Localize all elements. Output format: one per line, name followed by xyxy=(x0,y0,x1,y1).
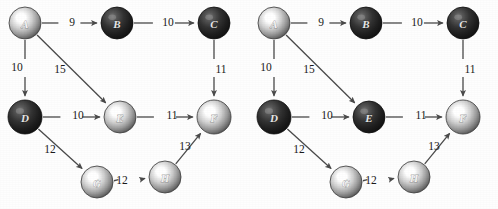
node-h[interactable]: H xyxy=(398,161,430,193)
node-e[interactable]: E xyxy=(353,101,385,133)
edge-d-e: 10 xyxy=(43,109,100,121)
node-label-a: A xyxy=(20,18,28,30)
edge-d-g: 12 xyxy=(287,129,331,168)
node-a[interactable]: A xyxy=(9,7,41,39)
node-label-f: F xyxy=(209,112,218,124)
edge-d-g: 12 xyxy=(38,129,82,168)
node-c[interactable]: C xyxy=(198,7,230,39)
edge-weight-e-f: 11 xyxy=(166,109,177,121)
edge-e-f: 11 xyxy=(386,109,442,121)
node-label-a: A xyxy=(269,18,277,30)
edge-weight-g-h: 12 xyxy=(116,174,128,186)
node-b[interactable]: B xyxy=(350,7,382,39)
edge-weight-d-g: 12 xyxy=(293,143,305,155)
node-label-b: B xyxy=(112,18,120,30)
edge-weight-g-h: 12 xyxy=(365,174,377,186)
node-c[interactable]: C xyxy=(447,7,479,39)
edge-g-h: 12 xyxy=(114,174,145,186)
edge-weight-h-f: 13 xyxy=(179,140,191,152)
edge-weight-a-b: 9 xyxy=(69,16,75,28)
node-label-e: E xyxy=(115,112,123,124)
edge-c-f: 11 xyxy=(463,40,476,96)
edge-weight-e-f: 11 xyxy=(415,109,426,121)
node-a[interactable]: A xyxy=(258,7,290,39)
node-f[interactable]: F xyxy=(446,100,480,134)
node-e[interactable]: E xyxy=(104,101,136,133)
right-graph-canvas: 9101015111011121213ABCDEFGH xyxy=(249,0,498,209)
edge-e-f: 11 xyxy=(137,109,193,121)
node-b[interactable]: B xyxy=(101,7,133,39)
edge-weight-a-e: 15 xyxy=(303,63,315,75)
left-graph-canvas: 9101015111011121213ABCDEFGH xyxy=(0,0,249,209)
edge-a-e: 15 xyxy=(286,35,355,103)
edge-weight-a-d: 10 xyxy=(11,61,23,73)
node-label-h: H xyxy=(160,172,170,184)
edge-d-e: 10 xyxy=(292,109,349,121)
edge-g-h: 12 xyxy=(363,174,394,186)
edge-c-f: 11 xyxy=(214,40,227,96)
node-d[interactable]: D xyxy=(8,100,42,134)
edge-h-f: 13 xyxy=(425,133,450,163)
edge-a-e: 15 xyxy=(37,35,106,103)
node-label-c: C xyxy=(459,18,467,30)
edge-weight-b-c: 10 xyxy=(162,16,174,28)
node-label-g: G xyxy=(93,177,101,189)
node-label-d: D xyxy=(20,112,29,124)
node-label-b: B xyxy=(361,18,369,30)
edge-weight-d-e: 10 xyxy=(321,109,333,121)
node-label-h: H xyxy=(409,172,419,184)
node-label-f: F xyxy=(458,112,467,124)
node-label-g: G xyxy=(342,177,350,189)
right-graph-panel: 9101015111011121213ABCDEFGH xyxy=(249,0,498,209)
node-label-e: E xyxy=(364,112,372,124)
edge-weight-h-f: 13 xyxy=(428,140,440,152)
node-g[interactable]: G xyxy=(330,166,362,198)
edge-weight-b-c: 10 xyxy=(411,16,423,28)
edge-h-f: 13 xyxy=(176,133,201,163)
node-label-c: C xyxy=(210,18,218,30)
edge-a-b: 9 xyxy=(291,16,346,28)
node-d[interactable]: D xyxy=(257,100,291,134)
edge-weight-d-g: 12 xyxy=(44,143,56,155)
edge-weight-d-e: 10 xyxy=(72,109,84,121)
edge-a-d: 10 xyxy=(11,40,25,96)
node-label-d: D xyxy=(269,112,278,124)
node-f[interactable]: F xyxy=(197,100,231,134)
node-g[interactable]: G xyxy=(81,166,113,198)
edge-b-c: 10 xyxy=(383,16,443,28)
figure-graph-pair: 9101015111011121213ABCDEFGH 910101511101… xyxy=(0,0,498,209)
edge-weight-c-f: 11 xyxy=(464,63,475,75)
edge-weight-c-f: 11 xyxy=(215,63,226,75)
edge-weight-a-d: 10 xyxy=(260,61,272,73)
edge-a-d: 10 xyxy=(260,40,274,96)
node-h[interactable]: H xyxy=(149,161,181,193)
edge-b-c: 10 xyxy=(134,16,194,28)
edge-weight-a-b: 9 xyxy=(318,16,324,28)
edge-weight-a-e: 15 xyxy=(54,63,66,75)
edge-a-b: 9 xyxy=(42,16,97,28)
left-graph-panel: 9101015111011121213ABCDEFGH xyxy=(0,0,249,209)
